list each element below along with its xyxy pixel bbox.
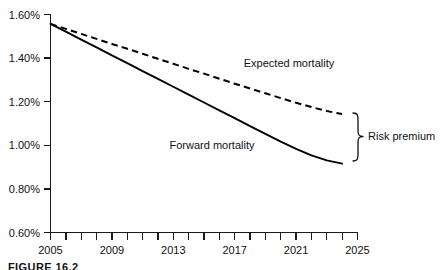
x-axis-ticks bbox=[51, 233, 358, 240]
figure-caption: FIGURE 16.2 bbox=[8, 261, 208, 270]
y-axis-ticks bbox=[44, 15, 51, 233]
mortality-chart: 1.60% 1.40% 1.20% 1.00% 0.80% 0.60% bbox=[0, 0, 441, 270]
x-tick-label-0: 2005 bbox=[38, 244, 62, 256]
x-tick-label-3: 2017 bbox=[222, 244, 246, 256]
x-axis-labels: 2005 2009 2013 2017 2021 2025 bbox=[38, 244, 369, 256]
y-tick-label-0: 1.60% bbox=[9, 9, 40, 21]
forward-mortality-label: Forward mortality bbox=[170, 139, 255, 151]
expected-mortality-label: Expected mortality bbox=[244, 57, 335, 69]
y-tick-label-2: 1.20% bbox=[9, 96, 40, 108]
figure-container: 1.60% 1.40% 1.20% 1.00% 0.80% 0.60% bbox=[0, 0, 441, 270]
y-tick-label-5: 0.60% bbox=[9, 227, 40, 239]
y-axis-labels: 1.60% 1.40% 1.20% 1.00% 0.80% 0.60% bbox=[9, 9, 40, 239]
x-tick-label-2: 2013 bbox=[161, 244, 185, 256]
x-tick-label-4: 2021 bbox=[284, 244, 308, 256]
x-tick-label-5: 2025 bbox=[345, 244, 369, 256]
y-tick-label-3: 1.00% bbox=[9, 139, 40, 151]
y-tick-label-4: 0.80% bbox=[9, 183, 40, 195]
risk-premium-bracket bbox=[353, 113, 363, 161]
risk-premium-label: Risk premium bbox=[368, 130, 435, 142]
y-tick-label-1: 1.40% bbox=[9, 52, 40, 64]
x-tick-label-1: 2009 bbox=[100, 244, 124, 256]
